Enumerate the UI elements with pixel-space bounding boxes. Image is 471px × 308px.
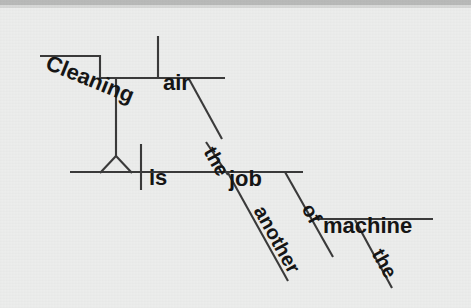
- diagram-lines: [0, 0, 471, 308]
- object-article-slant-line: [189, 79, 222, 139]
- word-verb: is: [149, 165, 167, 191]
- sentence-diagram-figure: Cleaning air the is job another of machi…: [0, 0, 471, 308]
- gerund-pedestal-right-leg: [116, 156, 132, 173]
- gerund-pedestal-left-leg: [100, 156, 116, 173]
- word-prep-object: machine: [323, 213, 412, 239]
- word-predicate-nominative: job: [229, 166, 262, 192]
- word-object: air: [163, 70, 190, 96]
